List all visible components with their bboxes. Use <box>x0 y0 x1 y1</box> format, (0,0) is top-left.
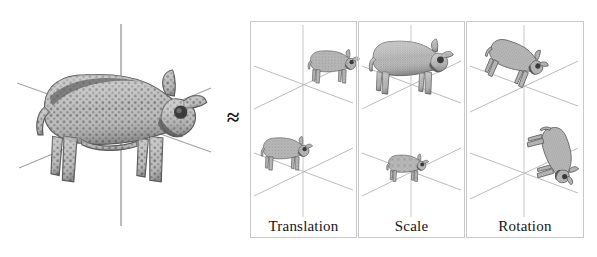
panel-label-scale: Scale <box>359 218 464 235</box>
panel-label-rotation: Rotation <box>467 218 583 235</box>
panel-scale: Scale <box>358 21 465 238</box>
panel-translation: Translation <box>250 21 357 238</box>
source-model-panel <box>8 10 220 246</box>
panel-rotation: Rotation <box>466 21 584 238</box>
source-model-svg <box>8 10 220 246</box>
decomposition-panels: Translation Scale Rotation <box>250 21 584 238</box>
approximately-equal-sign: ≈ <box>221 103 245 133</box>
source-cow-mesh <box>37 70 207 182</box>
figure-root: ≈ <box>0 0 597 257</box>
panel-label-translation: Translation <box>251 218 356 235</box>
